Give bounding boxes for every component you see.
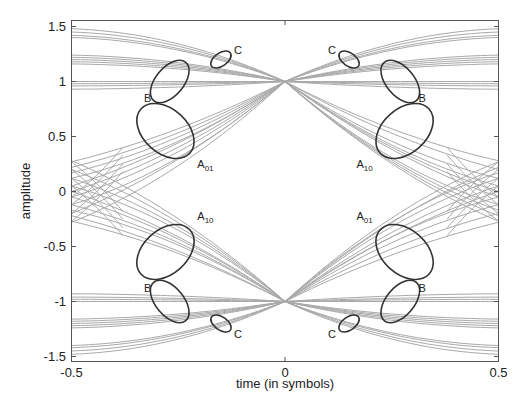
plot-frame [72, 21, 499, 362]
trace-falling [72, 216, 286, 302]
annotation-label-B: B [144, 92, 151, 104]
annotation-label-A10: A10 [197, 210, 214, 225]
y-tick-label: 1 [59, 74, 66, 89]
annotation-ellipses [126, 48, 444, 336]
y-tick-label: -1.5 [44, 349, 66, 364]
x-tick-label: -0.5 [60, 365, 82, 380]
trace-lower-mid [285, 302, 499, 320]
eye-diagram-chart: CBA01CBA10A10BCA01BC -1.5-1-0.500.511.5 … [0, 0, 531, 415]
annotation-label-B: B [419, 282, 426, 294]
trace-crossing [72, 162, 123, 212]
trace-rising [285, 82, 499, 170]
y-tick-label: 1.5 [48, 19, 66, 34]
annotation-label-C: C [234, 328, 242, 340]
y-tick-label: -1 [54, 294, 66, 309]
annotation-label-B: B [144, 282, 151, 294]
annotation-label-A01: A01 [197, 158, 214, 173]
annotation-label-B: B [419, 92, 426, 104]
trace-lower-flat [72, 302, 286, 355]
annotation-label-A01: A01 [356, 210, 373, 225]
trace-upper-flat [72, 29, 286, 82]
annotation-label-C: C [234, 44, 242, 56]
ellipse-A01 [365, 214, 443, 291]
y-tick-label: -0.5 [44, 239, 66, 254]
trace-upper-mid [285, 64, 499, 82]
annotation-label-A10: A10 [356, 158, 373, 173]
x-tick-label: 0.5 [489, 365, 507, 380]
trace-upper-mid [72, 64, 286, 82]
trace-falling [285, 178, 499, 301]
trace-lower-flat [285, 302, 499, 355]
signal-traces [72, 29, 499, 355]
annotation-label-C: C [328, 328, 336, 340]
trace-rising [285, 82, 499, 192]
y-tick-label: 0.5 [48, 129, 66, 144]
trace-rising [285, 82, 499, 205]
trace-upper-flat [285, 29, 499, 82]
annotation-labels: CBA01CBA10A10BCA01BC [144, 44, 426, 340]
y-tick-label: 0 [59, 184, 66, 199]
annotation-label-C: C [328, 44, 336, 56]
trace-rising [72, 82, 286, 168]
y-axis-ticks: -1.5-1-0.500.511.5 [44, 19, 499, 364]
x-axis-label: time (in symbols) [236, 376, 334, 391]
trace-falling [285, 192, 499, 302]
trace-lower-mid [72, 302, 286, 320]
y-axis-label: amplitude [18, 163, 33, 219]
trace-falling [285, 205, 499, 302]
